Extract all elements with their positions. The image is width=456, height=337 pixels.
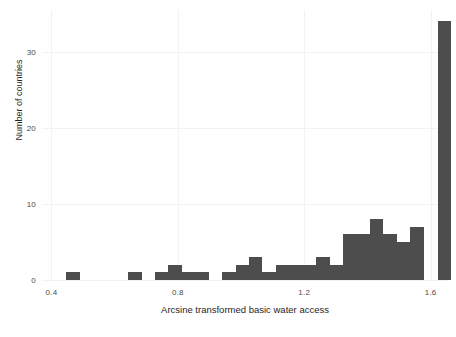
histogram-bar xyxy=(168,265,181,280)
histogram-bar xyxy=(383,234,396,280)
histogram-chart: 0102030 Number of countries 0.40.81.21.6… xyxy=(0,0,456,337)
histogram-bar xyxy=(438,21,451,280)
gridline-vertical xyxy=(304,10,305,280)
histogram-bar xyxy=(155,272,168,280)
x-tick-label: 0.4 xyxy=(46,288,58,297)
histogram-bar xyxy=(316,257,329,280)
histogram-bar xyxy=(262,272,275,280)
y-tick-label: 20 xyxy=(27,123,36,132)
histogram-bar xyxy=(128,272,141,280)
gridline-vertical xyxy=(51,10,52,280)
x-tick-label: 1.2 xyxy=(298,288,310,297)
histogram-bar xyxy=(236,265,249,280)
histogram-bar xyxy=(356,234,369,280)
histogram-bar xyxy=(289,265,302,280)
gridline-vertical xyxy=(431,10,432,280)
histogram-bar xyxy=(330,265,343,280)
y-tick-label: 0 xyxy=(31,276,36,285)
y-axis-title: Number of countries xyxy=(14,25,24,175)
histogram-bar xyxy=(397,242,410,280)
plot-area xyxy=(42,10,448,280)
gridline-horizontal xyxy=(42,128,448,129)
histogram-bar xyxy=(343,234,356,280)
x-axis-title: Arcsine transformed basic water access xyxy=(42,304,448,315)
y-tick-label: 30 xyxy=(27,47,36,56)
x-tick-label: 0.8 xyxy=(172,288,184,297)
x-tick-label: 1.6 xyxy=(425,288,437,297)
histogram-bar xyxy=(276,265,289,280)
gridline-vertical xyxy=(178,10,179,280)
histogram-bar xyxy=(195,272,208,280)
histogram-bar xyxy=(182,272,195,280)
histogram-bar xyxy=(410,227,423,280)
gridline-horizontal xyxy=(42,280,448,281)
x-axis-tick-labels: 0.40.81.21.6 xyxy=(42,288,448,302)
histogram-bar xyxy=(249,257,262,280)
y-tick-label: 10 xyxy=(27,199,36,208)
gridline-horizontal xyxy=(42,52,448,53)
gridline-horizontal xyxy=(42,204,448,205)
histogram-bar xyxy=(370,219,383,280)
histogram-bar xyxy=(222,272,235,280)
histogram-bar xyxy=(303,265,316,280)
histogram-bar xyxy=(66,272,79,280)
